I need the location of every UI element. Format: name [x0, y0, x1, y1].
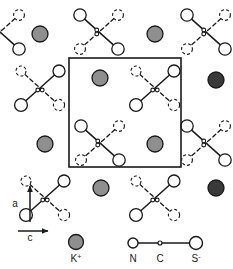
scn-atom-S: [130, 99, 143, 112]
cross-top-1: [74, 9, 124, 55]
scn-atom-C: [202, 139, 206, 143]
scn-atom-C: [155, 198, 159, 202]
scn-atom-C: [151, 88, 155, 92]
legend-potassium-charge: +: [77, 253, 81, 260]
scn-atom-S-back: [168, 99, 179, 110]
scn-atom-S: [15, 99, 28, 112]
scn-atom-N: [58, 175, 70, 187]
legend-layer: K+NCS-: [69, 235, 203, 265]
legend-potassium-icon: [69, 235, 84, 250]
scn-atom-C: [45, 198, 49, 202]
scn-atom-C: [95, 32, 99, 36]
cross-left-mid: [15, 65, 65, 111]
scn-atom-S-back: [58, 209, 69, 220]
scn-atom-N-back: [220, 10, 231, 21]
scn-atom-C: [96, 139, 100, 143]
scn-atom-N-back: [114, 121, 125, 132]
cross-bottom-2: [130, 175, 180, 221]
scn-atom-S: [13, 43, 25, 55]
potassium-ion: [147, 26, 163, 42]
cross-top-2: [181, 9, 231, 55]
scn-atom-S: [219, 43, 231, 55]
cross-partial-top-left-clip: [0, 9, 25, 55]
scn-atom-N: [181, 9, 193, 21]
scn-atom-C: [202, 28, 206, 32]
scn-atom-C: [95, 28, 99, 32]
scn-atom-N-back: [131, 66, 141, 76]
cross-cell-upper-right: [130, 65, 180, 111]
scn-bond-dashed: [0, 19, 15, 46]
legend-carbon-icon: [158, 241, 162, 245]
scn-atom-C: [155, 88, 159, 92]
legend-carbon-label: C: [156, 253, 163, 264]
scn-atom-C: [36, 88, 40, 92]
scn-atom-S-back: [182, 155, 193, 166]
scn-atom-N: [75, 120, 87, 132]
potassium-ion: [92, 70, 108, 86]
scn-atom-N-back: [113, 10, 124, 21]
scn-atom-N: [181, 120, 193, 132]
scn-atom-N: [168, 65, 180, 77]
scn-atom-N: [53, 65, 65, 77]
scn-bond-solid: [0, 19, 14, 45]
scn-atom-S-back: [76, 155, 87, 166]
potassium-ion: [93, 180, 109, 196]
potassium-layer: [32, 26, 224, 196]
scn-atom-N-back: [16, 66, 26, 76]
scn-atom-N-back: [14, 10, 25, 21]
legend-sulfur-label-charge: -: [198, 253, 201, 260]
axis-c-label: c: [28, 232, 33, 243]
legend-potassium-label: K+: [71, 253, 82, 265]
scn-atom-S: [130, 209, 143, 222]
crystal-structure-diagram: ac K+NCS-: [0, 0, 233, 269]
legend-nitrogen-label: N: [129, 253, 136, 264]
scn-atom-C: [40, 88, 44, 92]
potassium-ion: [32, 26, 48, 42]
axis-a-label: a: [12, 198, 18, 209]
scn-atom-S: [112, 43, 124, 55]
scn-atom-N-back: [220, 121, 231, 132]
scn-atom-S-back: [182, 44, 193, 55]
scn-atom-N: [168, 175, 180, 187]
scn-atom-C: [41, 198, 45, 202]
cross-bottom-1: [20, 175, 70, 221]
scn-atom-S-back: [168, 209, 179, 220]
cross-cell-lower-left: [75, 120, 125, 166]
scn-atom-N-back: [21, 176, 31, 186]
unit-cell-layer: [69, 58, 181, 167]
scn-atom-S-back: [75, 44, 86, 55]
scn-atom-N: [74, 9, 86, 21]
potassium-ion: [208, 72, 224, 88]
scn-atom-C: [202, 32, 206, 36]
axes-layer: ac: [12, 186, 48, 243]
unit-cell-box: [69, 58, 181, 167]
crystal-structure-figure: ac K+NCS-: [0, 0, 233, 269]
scn-atom-C: [96, 143, 100, 147]
potassium-ion: [37, 136, 53, 152]
scn-atom-C: [202, 143, 206, 147]
legend-sulfur-label: S-: [191, 253, 201, 265]
legend-nitrogen-icon: [128, 238, 138, 248]
scn-atom-S: [113, 154, 125, 166]
legend-sulfur-icon: [190, 237, 203, 250]
potassium-ion: [147, 136, 163, 152]
scn-atom-S-back: [53, 99, 64, 110]
potassium-ion: [208, 180, 224, 196]
cross-right-mid: [181, 120, 231, 166]
scn-atom-S: [219, 154, 231, 166]
scn-atom-N-back: [131, 176, 141, 186]
scn-atom-C: [151, 198, 155, 202]
